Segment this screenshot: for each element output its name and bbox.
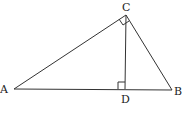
label-b: B (174, 85, 182, 98)
right-angle-mark-d (118, 82, 125, 89)
segment-cd-altitude (125, 15, 126, 89)
segment-ab (14, 89, 172, 90)
segment-ac (14, 15, 126, 89)
label-a: A (0, 83, 9, 96)
label-d: D (121, 93, 130, 106)
label-c: C (122, 1, 130, 14)
segment-bc (126, 15, 172, 90)
right-angle-mark-c (119, 19, 129, 25)
triangle-diagram: C A B D (0, 0, 191, 113)
